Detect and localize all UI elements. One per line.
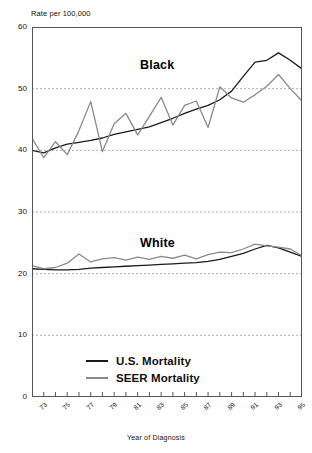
x-tick-label: 83 [156, 401, 166, 411]
chart-legend: U.S. MortalitySEER Mortality [86, 352, 200, 386]
x-tick-label: 85 [179, 401, 189, 411]
group-label-white: White [140, 236, 175, 250]
x-tick-label: 87 [202, 401, 212, 411]
x-tick-label: 73 [38, 401, 48, 411]
x-tick-label: 81 [132, 401, 142, 411]
x-tick-label: 79 [109, 401, 119, 411]
y-tick-label: 0 [5, 392, 27, 401]
plot-area [32, 27, 302, 397]
plot-svg [32, 27, 302, 397]
y-tick-label: 30 [5, 207, 27, 216]
x-tick-label: 95 [296, 401, 306, 411]
y-tick-label: 10 [5, 330, 27, 339]
legend-label: U.S. Mortality [116, 355, 191, 367]
gridlines [32, 89, 302, 336]
y-tick-label: 20 [5, 269, 27, 278]
y-axis-title: Rate per 100,000 [31, 9, 91, 18]
legend-line-swatch [86, 360, 108, 362]
chart-figure: Rate per 100,000 0102030405060 737577798… [0, 0, 312, 453]
y-tick-label: 40 [5, 145, 27, 154]
y-tick-label: 50 [5, 84, 27, 93]
group-label-black: Black [140, 58, 174, 72]
x-tick-label: 93 [273, 401, 283, 411]
x-tick-label: 75 [62, 401, 72, 411]
series-line-black-seer [32, 74, 302, 157]
x-tick-label: 91 [249, 401, 259, 411]
x-tick-label: 77 [85, 401, 95, 411]
x-tick-label: 89 [226, 401, 236, 411]
legend-label: SEER Mortality [116, 372, 200, 384]
y-tick-label: 60 [5, 22, 27, 31]
legend-line-swatch [86, 377, 108, 379]
x-axis-title: Year of Diagnosis [0, 434, 312, 441]
legend-item: U.S. Mortality [86, 352, 200, 369]
legend-item: SEER Mortality [86, 369, 200, 386]
